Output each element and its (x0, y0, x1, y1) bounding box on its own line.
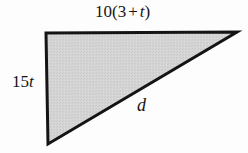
label-left-variable: t (29, 72, 34, 91)
shaded-right-triangle (46, 32, 237, 144)
label-hypotenuse-variable: d (137, 95, 146, 115)
triangle-graphic (0, 0, 248, 153)
triangle-figure: 10(3+t) 15t d (0, 0, 248, 153)
label-top-inner-number: 3 (118, 2, 127, 21)
label-hypotenuse: d (137, 96, 146, 114)
label-left-leg: 15t (12, 73, 34, 90)
label-left-coefficient: 15 (12, 72, 29, 91)
label-top-close-paren: ) (145, 2, 151, 21)
label-top-operator: + (128, 2, 138, 21)
label-top-edge: 10(3+t) (95, 3, 150, 20)
label-top-coefficient: 10 (95, 2, 112, 21)
